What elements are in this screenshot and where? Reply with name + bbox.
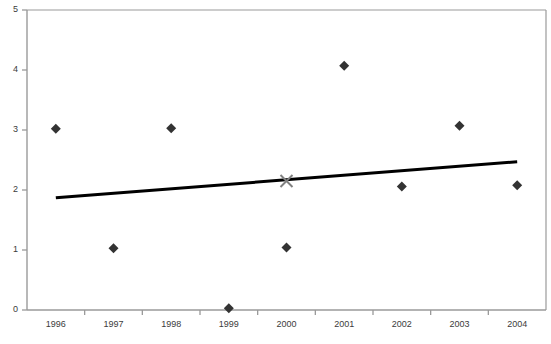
data-point-1996 bbox=[51, 124, 61, 134]
chart-plot-area bbox=[0, 0, 551, 344]
chart-container: 012345 199619971998199920002001200220032… bbox=[0, 0, 551, 344]
x-tick-label-1999: 1999 bbox=[209, 320, 249, 329]
y-tick-label-2: 2 bbox=[2, 185, 18, 194]
data-point-1998 bbox=[166, 123, 176, 133]
data-point-2004 bbox=[512, 180, 522, 190]
y-tick-label-1: 1 bbox=[2, 245, 18, 254]
data-point-2002 bbox=[397, 181, 407, 191]
x-tick-label-1997: 1997 bbox=[94, 320, 134, 329]
x-tick-label-2000: 2000 bbox=[267, 320, 307, 329]
data-point-1997 bbox=[109, 243, 119, 253]
tick-marks-group bbox=[22, 10, 488, 315]
x-tick-label-2002: 2002 bbox=[382, 320, 422, 329]
data-point-2001 bbox=[339, 61, 349, 71]
x-tick-label-1996: 1996 bbox=[36, 320, 76, 329]
y-tick-label-5: 5 bbox=[2, 5, 18, 14]
data-point-1999 bbox=[224, 303, 234, 313]
x-tick-label-2004: 2004 bbox=[497, 320, 537, 329]
y-tick-label-3: 3 bbox=[2, 125, 18, 134]
y-tick-label-0: 0 bbox=[2, 305, 18, 314]
x-tick-label-1998: 1998 bbox=[151, 320, 191, 329]
data-points-group bbox=[51, 61, 522, 313]
x-tick-label-2003: 2003 bbox=[440, 320, 480, 329]
y-tick-label-4: 4 bbox=[2, 65, 18, 74]
x-tick-label-2001: 2001 bbox=[324, 320, 364, 329]
data-point-2003 bbox=[455, 121, 465, 131]
data-point-2000 bbox=[282, 243, 292, 253]
axis-group bbox=[27, 10, 546, 310]
